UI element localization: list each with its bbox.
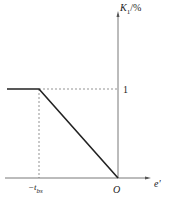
y-axis-label: K1/%: [120, 3, 141, 16]
origin-label: O: [113, 185, 120, 195]
chart-plot: [0, 0, 170, 206]
x-tick-neg-tbs: −tbs: [28, 183, 43, 195]
series-k1-line: [7, 89, 118, 178]
y-tick-1: 1: [123, 85, 128, 95]
x-axis-arrow-icon: [145, 177, 151, 180]
x-axis-label: e′: [154, 179, 161, 189]
